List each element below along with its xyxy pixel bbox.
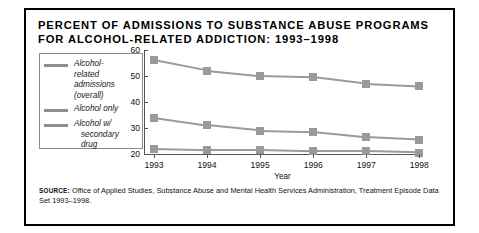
x-axis-line (144, 154, 421, 155)
y-axis-tick-label: 20 (130, 149, 140, 159)
x-axis-tick-label: 1997 (357, 160, 376, 170)
data-point-marker (203, 121, 211, 129)
title-line-1: PERCENT OF ADMISSIONS TO SUBSTANCE ABUSE… (38, 19, 442, 33)
x-axis-tick-mark (260, 154, 261, 158)
legend-item-alcohol-with-secondary-drug: Alcohol w/ secondary drug (44, 119, 142, 151)
y-axis-tick-label: 30 (130, 123, 140, 133)
data-point-marker (203, 67, 211, 75)
y-axis-tick-mark (144, 76, 148, 77)
legend-item-alcohol-related-admissions: Alcohol- related admissions (overall) (44, 59, 142, 101)
y-axis-tick-mark (144, 102, 148, 103)
data-point-marker (150, 145, 158, 153)
data-point-marker (150, 56, 158, 64)
data-point-marker (309, 128, 317, 136)
x-axis-tick-label: 1996 (304, 160, 323, 170)
data-point-marker (256, 72, 264, 80)
source-text: Office of Applied Studies, Substance Abu… (39, 186, 439, 205)
x-axis-title: Year (144, 172, 421, 181)
series-line-segment (207, 149, 260, 151)
x-axis-tick-label: 1995 (251, 160, 270, 170)
y-axis-tick-mark (144, 50, 148, 51)
data-point-marker (256, 127, 264, 135)
page-title: PERCENT OF ADMISSIONS TO SUBSTANCE ABUSE… (38, 19, 442, 46)
data-point-marker (256, 146, 264, 154)
y-axis-tick-label: 40 (130, 97, 140, 107)
y-axis-tick-label: 50 (130, 71, 140, 81)
data-point-marker (203, 146, 211, 154)
legend-label-line: admissions (74, 80, 142, 91)
x-axis-tick-label: 1994 (198, 160, 217, 170)
legend-item-alcohol-only: Alcohol only (44, 104, 142, 115)
line-chart: 2030405060 199319941995199619971998 Year (144, 50, 442, 170)
data-point-marker (415, 136, 423, 144)
x-axis-tick-mark (313, 154, 314, 158)
source-note: SOURCE: Office of Applied Studies, Subst… (39, 186, 443, 205)
data-point-marker (415, 82, 423, 90)
title-line-2: FOR ALCOHOL-RELATED ADDICTION: 1993–1998 (38, 33, 442, 47)
series-line-segment (313, 150, 366, 152)
x-axis-tick-mark (207, 154, 208, 158)
data-point-marker (309, 73, 317, 81)
y-axis-tick-mark (144, 154, 148, 155)
x-axis-tick-mark (366, 154, 367, 158)
data-point-marker (362, 80, 370, 88)
legend-swatch-icon (44, 64, 68, 67)
source-label: SOURCE: (39, 187, 70, 194)
y-axis-tick-mark (144, 128, 148, 129)
legend-label-line: Alcohol- (74, 59, 142, 70)
y-axis-tick-label: 60 (130, 45, 140, 55)
figure-frame: PERCENT OF ADMISSIONS TO SUBSTANCE ABUSE… (24, 8, 455, 226)
x-axis-tick-label: 1998 (410, 160, 429, 170)
x-axis-tick-mark (419, 154, 420, 158)
x-axis-tick-mark (154, 154, 155, 158)
data-point-marker (150, 114, 158, 122)
data-point-marker (362, 133, 370, 141)
legend-swatch-icon (44, 109, 68, 112)
chart-legend: Alcohol- related admissions (overall) Al… (39, 53, 143, 149)
legend-swatch-icon (44, 124, 68, 127)
x-axis-tick-label: 1993 (144, 160, 163, 170)
